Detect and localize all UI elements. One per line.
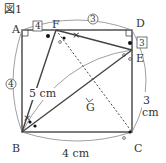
length-bf: 5 cm [29, 87, 57, 100]
angle-circle-c [123, 137, 126, 140]
right-angle-d [126, 30, 132, 36]
label-e: E [136, 52, 144, 65]
angle-circle-e2 [129, 58, 132, 61]
label-c: C [134, 142, 142, 155]
angle-circle-f [59, 41, 62, 44]
label-f: F [52, 18, 60, 31]
label-b: B [12, 142, 20, 155]
segment-fe [56, 30, 132, 50]
arc-bc [22, 132, 132, 141]
circle-fd-text: 3 [90, 14, 96, 24]
length-ce-unit: cm [142, 106, 159, 119]
angle-dot-f-right [62, 36, 65, 39]
angle-dot-f-left [46, 34, 50, 38]
circle-ab-text: 4 [8, 79, 14, 89]
angle-dot-c [128, 130, 131, 133]
right-angle-a [22, 30, 28, 36]
angle-dot-b1 [28, 120, 31, 123]
length-bc: 4 cm [62, 147, 90, 160]
label-a: A [11, 23, 21, 36]
segment-fc-dotted [56, 30, 132, 132]
box-af-text: 4 [35, 21, 41, 31]
label-d: D [136, 17, 145, 30]
geometry-figure: 図1 × × A F D E B C G 5 cm 4 cm 3 cm 4 3 … [0, 0, 166, 163]
figure-title: 図1 [4, 3, 22, 16]
angle-dot-b2 [33, 124, 36, 127]
angle-x-f: × [72, 29, 80, 40]
box-de-text: 3 [139, 38, 145, 48]
angle-dot-e [128, 41, 132, 45]
label-g: G [86, 101, 95, 114]
